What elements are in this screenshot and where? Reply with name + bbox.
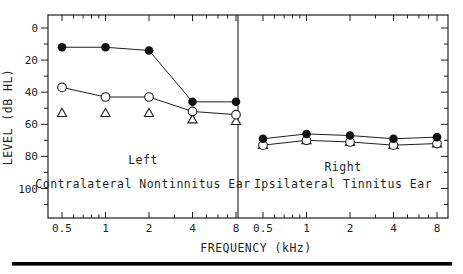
x-tick-label: 2 <box>347 222 354 235</box>
x-tick-label: 1 <box>303 222 310 235</box>
y-tick-label: 80 <box>25 150 38 163</box>
panel-right-series <box>258 130 441 150</box>
x-tick-label: 8 <box>434 222 441 235</box>
y-axis-title: LEVEL (dB HL) <box>1 69 15 166</box>
x-tick-label: 4 <box>189 222 196 235</box>
data-series <box>57 43 441 150</box>
y-tick-label: 20 <box>25 54 38 67</box>
right-panel-title-line1: Right <box>324 160 361 174</box>
audiogram-chart: 0204060801000.512480.51248 LEVEL (dB HL)… <box>0 0 463 274</box>
x-tick-label: 0.5 <box>253 222 273 235</box>
right-panel-title-line2: Ipsilateral Tinnitus Ear <box>254 177 432 191</box>
y-tick-label: 0 <box>31 22 38 35</box>
x-tick-label: 0.5 <box>52 222 72 235</box>
x-tick-label: 2 <box>146 222 153 235</box>
x-tick-label: 8 <box>233 222 240 235</box>
panel-left-series <box>57 43 240 125</box>
left-panel-title-line2: Contralateral Nontinnitus Ear <box>35 177 250 191</box>
x-tick-label: 1 <box>102 222 109 235</box>
open-triangle-markers <box>57 108 240 124</box>
left-panel-title-line1: Left <box>128 153 158 167</box>
audiogram-figure: 0204060801000.512480.51248 LEVEL (dB HL)… <box>0 0 463 274</box>
bottom-rule <box>12 262 452 266</box>
y-tick-label: 60 <box>25 118 38 131</box>
x-tick-label: 4 <box>390 222 397 235</box>
x-axis-title: FREQUENCY (kHz) <box>200 241 311 255</box>
y-tick-label: 40 <box>25 86 38 99</box>
